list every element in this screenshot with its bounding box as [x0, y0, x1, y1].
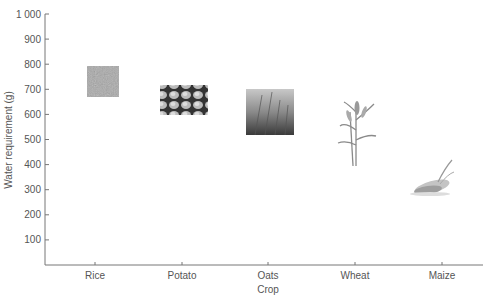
rice-image-marker: [87, 66, 119, 97]
x-axis-title: Crop: [257, 284, 279, 295]
y-tick-label: 200: [24, 209, 41, 220]
x-tick-label: Oats: [257, 270, 278, 281]
y-tick-label: 600: [24, 109, 41, 120]
y-tick-label: 500: [24, 134, 41, 145]
x-tick-label: Potato: [168, 270, 197, 281]
x-tick-label: Rice: [85, 270, 105, 281]
y-tick-label: 1 000: [16, 9, 41, 20]
oats-image-marker: [246, 89, 294, 135]
x-tick-label: Wheat: [341, 270, 370, 281]
x-tick-label: Maize: [429, 270, 456, 281]
x-axis: RicePotatoOatsWheatMaize: [45, 262, 483, 281]
chart: 1002003004005006007008009001 000 RicePot…: [0, 0, 483, 306]
y-tick-label: 700: [24, 84, 41, 95]
y-tick-label: 800: [24, 59, 41, 70]
potato-image-marker: [160, 85, 208, 115]
y-tick-label: 400: [24, 159, 41, 170]
y-tick-label: 100: [24, 234, 41, 245]
wheat-image-marker: [338, 101, 376, 166]
y-tick-label: 900: [24, 34, 41, 45]
y-tick-label: 300: [24, 184, 41, 195]
maize-image-marker: [410, 160, 454, 197]
y-axis: 1002003004005006007008009001 000: [16, 9, 49, 266]
y-axis-title: Water requirement (g): [3, 91, 14, 188]
